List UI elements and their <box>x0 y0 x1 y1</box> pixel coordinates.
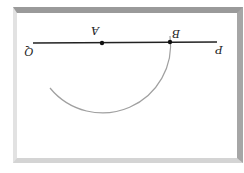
line-qp <box>33 42 217 43</box>
geometry-diagram: A B Q P <box>0 0 244 173</box>
point-b <box>168 40 172 44</box>
label-q: Q <box>24 45 33 58</box>
label-p: P <box>215 43 224 56</box>
label-b: B <box>172 27 181 40</box>
arc-centered-a <box>50 36 171 113</box>
point-a <box>100 41 104 45</box>
label-a: A <box>91 24 100 37</box>
